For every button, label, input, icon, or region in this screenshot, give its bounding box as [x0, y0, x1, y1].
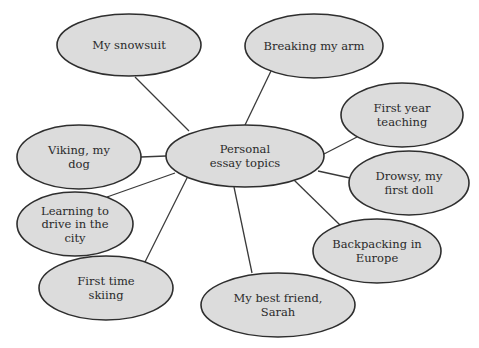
node-label-line: Viking, my: [47, 143, 110, 157]
node-label-line: Europe: [356, 251, 399, 265]
topic-node-skiing: First timeskiing: [39, 256, 173, 320]
connector-backpacking: [294, 180, 340, 225]
node-label-line: Backpacking in: [332, 237, 422, 251]
node-label-line: Breaking my arm: [264, 39, 365, 53]
node-label-line: Sarah: [261, 305, 296, 319]
node-label-line: dog: [68, 157, 90, 171]
topic-node-teaching: First yearteaching: [341, 83, 463, 147]
topic-node-friend: My best friend,Sarah: [201, 273, 355, 337]
node-label-line: city: [64, 231, 86, 245]
topic-node-snowsuit: My snowsuit: [57, 14, 201, 76]
node-label-line: First year: [374, 101, 431, 115]
node-label-line: Drowsy, my: [375, 169, 443, 183]
node-label-line: Learning to: [41, 204, 109, 218]
topic-node-viking: Viking, mydog: [17, 125, 141, 189]
topic-node-driving: Learning todrive in thecity: [17, 192, 133, 256]
mind-map-diagram: My snowsuitBreaking my armFirst yearteac…: [0, 0, 479, 348]
central-topic-node: Personalessay topics: [166, 125, 324, 187]
node-label-line: First time: [77, 274, 135, 288]
connector-doll: [318, 171, 350, 178]
node-label-line: essay topics: [210, 156, 281, 170]
node-label-line: My best friend,: [234, 291, 323, 305]
connector-arm: [245, 71, 271, 125]
node-label-line: My snowsuit: [92, 38, 166, 52]
node-label-line: teaching: [377, 115, 428, 129]
node-label-line: drive in the: [41, 217, 108, 231]
topic-nodes: My snowsuitBreaking my armFirst yearteac…: [17, 14, 469, 337]
topic-node-doll: Drowsy, myfirst doll: [349, 151, 469, 215]
node-label-line: Personal: [220, 142, 271, 156]
node-label-line: skiing: [89, 288, 125, 302]
connector-teaching: [324, 137, 357, 154]
connector-skiing: [145, 176, 188, 262]
connector-viking: [141, 156, 166, 157]
topic-node-arm: Breaking my arm: [245, 14, 383, 78]
connector-snowsuit: [135, 77, 189, 131]
node-label-line: first doll: [385, 183, 434, 197]
topic-node-backpacking: Backpacking inEurope: [313, 219, 441, 283]
connector-friend: [234, 187, 252, 273]
